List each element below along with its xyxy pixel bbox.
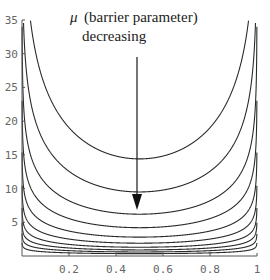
axes [22,20,257,256]
curve-mu_8 [22,223,257,250]
x-tick-label: 0.8 [200,263,220,276]
curve-mu_2 [24,23,256,192]
annotation: μ (barrier parameter) decreasing [69,9,198,210]
mu-symbol: μ [69,9,78,25]
y-tick-label: 25 [5,81,18,94]
y-tick-label: 15 [5,149,18,162]
y-tick-label: 35 [5,14,18,27]
x-tick-label: 0.6 [153,263,173,276]
arrow-head-icon [132,194,142,210]
y-tick-label: 10 [5,183,18,196]
barrier-function-chart: 0.20.40.60.81 5101520253035 μ (barrier p… [0,0,270,280]
y-tick-label: 30 [5,48,18,61]
x-tick-label: 0.4 [106,263,126,276]
x-tick-label: 1 [254,263,261,276]
curve-family [22,21,257,254]
curve-mu_3 [22,27,257,214]
annotation-line2: decreasing [82,28,147,44]
annotation-line1: (barrier parameter) [84,9,198,26]
y-tick-label: 20 [5,115,18,128]
y-tick-label: 5 [11,216,18,229]
curve-mu_4 [22,101,257,228]
x-tick-label: 0.2 [59,263,79,276]
